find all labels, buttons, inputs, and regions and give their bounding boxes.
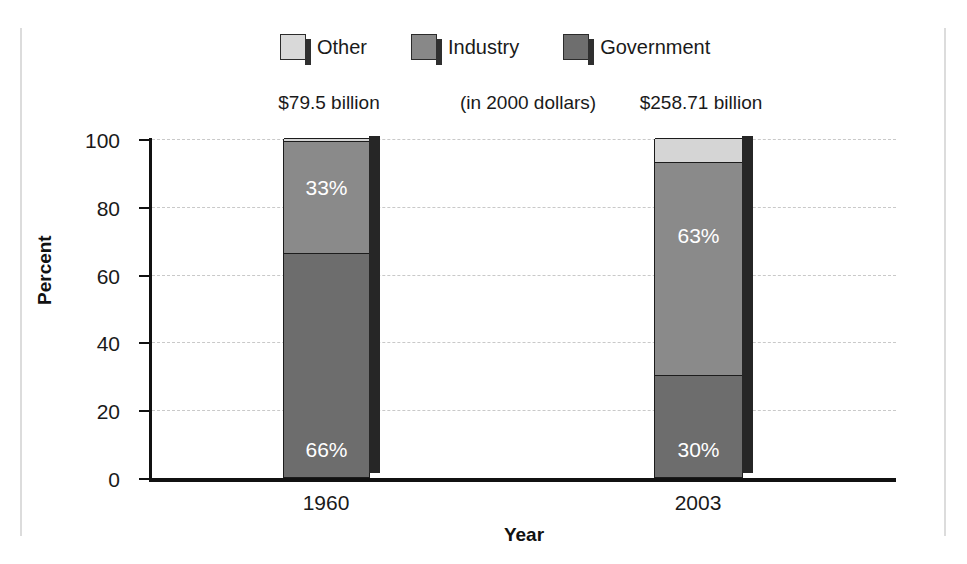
x-tick-label-2003: 2003: [675, 491, 722, 515]
y-tick-80: 80: [139, 207, 150, 209]
y-axis-line: [149, 138, 152, 479]
y-tick-0: 0: [139, 478, 150, 480]
segment-label-1960-industry: 33%: [305, 176, 347, 200]
frame-rule-right: [944, 28, 946, 536]
y-tick-label-100: 100: [85, 129, 120, 153]
y-tick-label-40: 40: [97, 332, 120, 356]
segment-1960-industry[interactable]: 33%: [284, 141, 369, 253]
y-tick-label-20: 20: [97, 400, 120, 424]
y-tick-20: 20: [139, 410, 150, 412]
y-tick-60: 60: [139, 275, 150, 277]
y-tick-label-80: 80: [97, 197, 120, 221]
frame-rule-left: [20, 28, 22, 536]
gridline-40: [152, 342, 896, 343]
y-tick-label-60: 60: [97, 265, 120, 289]
gridline-60: [152, 275, 896, 276]
gridline-80: [152, 207, 896, 208]
segment-label-1960-government: 66%: [305, 438, 347, 462]
annotation-total-2003: $258.71 billion: [640, 92, 763, 114]
chart-annotations: $79.5 billion (in 2000 dollars) $258.71 …: [120, 92, 880, 120]
plot-area: 100 80 60 40 20 0 66% 33%: [152, 139, 896, 478]
y-tick-100: 100: [139, 139, 150, 141]
segment-label-2003-government: 30%: [677, 438, 719, 462]
chart-figure: Other Industry Government $79.5 billion …: [0, 0, 967, 564]
segment-label-2003-industry: 63%: [677, 224, 719, 248]
annotation-total-1960: $79.5 billion: [278, 92, 379, 114]
other-swatch-icon: [280, 34, 306, 60]
segment-2003-industry[interactable]: 63%: [655, 162, 742, 376]
legend-item-government: Government: [563, 34, 710, 60]
industry-swatch-icon: [411, 34, 437, 60]
legend-label-industry: Industry: [448, 36, 519, 59]
chart-legend: Other Industry Government: [280, 30, 820, 64]
legend-item-industry: Industry: [411, 34, 519, 60]
segment-1960-government[interactable]: 66%: [284, 253, 369, 477]
segment-1960-other[interactable]: [284, 138, 369, 141]
x-tick-label-1960: 1960: [303, 491, 350, 515]
bar-1960[interactable]: 66% 33%: [283, 139, 370, 478]
legend-label-government: Government: [600, 36, 710, 59]
annotation-units-note: (in 2000 dollars): [460, 92, 596, 114]
legend-label-other: Other: [317, 36, 367, 59]
bar-2003[interactable]: 30% 63%: [654, 139, 743, 478]
segment-2003-government[interactable]: 30%: [655, 375, 742, 477]
x-axis-line: [149, 478, 896, 482]
gridline-20: [152, 410, 896, 411]
segment-2003-other[interactable]: [655, 138, 742, 162]
gridline-100: [152, 139, 896, 140]
government-swatch-icon: [563, 34, 589, 60]
x-axis-title: Year: [504, 524, 544, 546]
legend-item-other: Other: [280, 34, 367, 60]
y-tick-40: 40: [139, 342, 150, 344]
y-tick-label-0: 0: [108, 468, 120, 492]
y-axis-title: Percent: [34, 235, 56, 305]
